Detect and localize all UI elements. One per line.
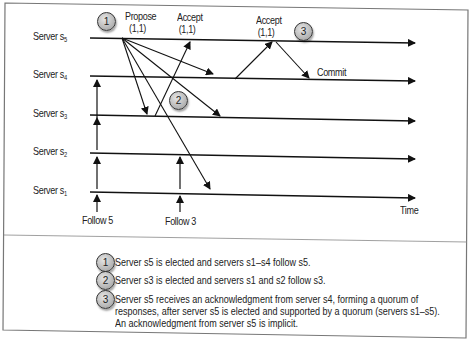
callout-badge-1: 1: [97, 12, 116, 31]
server-label-s1: Server s1: [33, 184, 67, 197]
note-badge-1: 1: [96, 253, 115, 272]
commit-label: Commit: [317, 66, 346, 78]
timeline-s4: [90, 76, 415, 81]
accept-label-2: Accept(1,1): [256, 14, 282, 38]
note-3-line-3: An acknowledgment from server s5 is impl…: [115, 317, 440, 329]
server-label-s5: Server s5: [33, 30, 67, 43]
timeline-s3: [90, 115, 415, 121]
follow3-label: Follow 3: [165, 215, 196, 227]
propose-label: Propose(1,1): [125, 10, 156, 34]
note-badge-2: 2: [96, 271, 115, 290]
accept-label-1: Accept(1,1): [177, 11, 203, 35]
server-label-s4: Server s4: [33, 68, 67, 81]
note-badge-3: 3: [96, 290, 115, 309]
timeline-s2: [90, 153, 415, 159]
follow5-label: Follow 5: [82, 214, 113, 226]
note-3-line-1: Server s5 receives an acknowledgment fro…: [115, 293, 440, 305]
timeline-s1: [90, 192, 415, 198]
frame-border: [3, 3, 468, 338]
note-3-line-2: responses, after server s5 is elected an…: [115, 305, 440, 317]
note-1: Server s5 is elected and servers s1–s4 f…: [115, 256, 311, 268]
callout-badge-3: 3: [294, 22, 313, 41]
callout-badge-2: 2: [169, 91, 188, 110]
server-label-s2: Server s2: [33, 145, 67, 158]
note-3: Server s5 receives an acknowledgment fro…: [115, 293, 440, 329]
divider: [4, 235, 467, 242]
server-label-s3: Server s3: [33, 107, 67, 120]
note-2: Server s3 is elected and servers s1 and …: [115, 274, 326, 286]
time-label: Time: [400, 204, 418, 216]
timeline-s5: [90, 38, 415, 43]
